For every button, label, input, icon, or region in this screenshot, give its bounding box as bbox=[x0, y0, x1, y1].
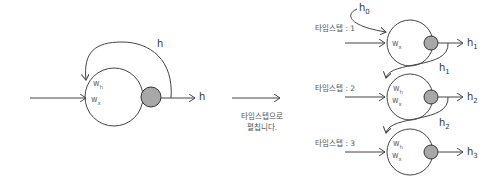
h2-output-label: h2 bbox=[467, 91, 478, 105]
activation-node bbox=[141, 87, 161, 107]
timestep-2-label: 타임스텝 : 2 bbox=[315, 82, 355, 93]
step1-weight-x: wx bbox=[392, 39, 402, 50]
timestep-1-label: 타임스텝 : 1 bbox=[315, 22, 355, 33]
diagram-canvas bbox=[0, 0, 504, 184]
left-output-label: h bbox=[199, 91, 205, 102]
step2-weight-h: wh bbox=[393, 84, 403, 95]
step-3-cell bbox=[345, 129, 463, 175]
step3-weight-h: wh bbox=[393, 139, 403, 150]
h2-recurrent-label: h2 bbox=[439, 117, 450, 131]
h3-output-label: h3 bbox=[467, 146, 478, 160]
h0-label: h0 bbox=[359, 2, 370, 16]
left-weight-x: wx bbox=[91, 95, 101, 106]
left-loop-label: h bbox=[157, 38, 163, 49]
left-rnn-cell bbox=[30, 42, 195, 126]
unfold-caption: 타임스텝으로 펼칩니다. bbox=[232, 111, 292, 133]
step3-weight-x: wx bbox=[392, 151, 402, 162]
timestep-3-label: 타임스텝 : 3 bbox=[315, 137, 355, 148]
step2-weight-x: wx bbox=[392, 96, 402, 107]
left-weight-h: wh bbox=[93, 79, 103, 90]
h1-output-label: h1 bbox=[467, 37, 478, 51]
h1-recurrent-label: h1 bbox=[439, 62, 450, 76]
